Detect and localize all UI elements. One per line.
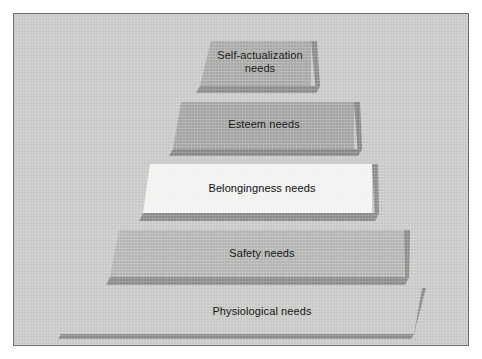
maslow-pyramid-graphic: [14, 14, 469, 346]
figure-root: Self-actualization needs Esteem needs Be…: [0, 0, 482, 359]
tier-safety: [106, 230, 410, 285]
tier-self-actualization-shadow-edge: [311, 41, 320, 93]
tier-safety-shadow-edge: [404, 230, 410, 285]
tier-self-actualization-face: [200, 41, 311, 86]
tier-physiological-face: [61, 288, 422, 334]
tier-self-actualization-shadow: [196, 86, 320, 93]
tier-physiological: [58, 288, 426, 339]
figure-frame: Self-actualization needs Esteem needs Be…: [13, 13, 469, 346]
tier-safety-shadow: [106, 277, 409, 285]
tier-belongingness-face: [143, 164, 372, 213]
tier-belongingness: [139, 164, 379, 221]
tier-self-actualization: [196, 41, 320, 93]
tier-physiological-shadow: [58, 334, 414, 339]
tier-belongingness-shadow-edge: [372, 164, 379, 221]
tier-belongingness-shadow: [139, 213, 379, 221]
tier-esteem-face: [173, 102, 354, 149]
tier-esteem-shadow-edge: [354, 102, 362, 156]
tier-esteem-shadow: [169, 149, 362, 156]
tier-esteem: [169, 102, 362, 156]
tier-safety-face: [110, 230, 404, 277]
